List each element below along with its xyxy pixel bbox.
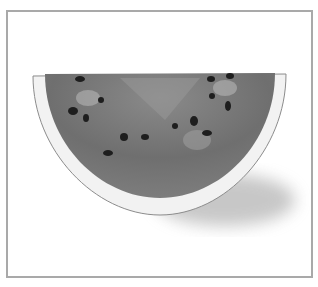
flesh-highlight <box>76 90 100 106</box>
watermelon-photo <box>0 0 318 287</box>
flesh-highlight <box>213 80 237 96</box>
